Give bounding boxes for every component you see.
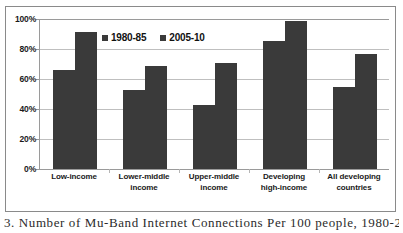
category-label-upper-middle-income: Upper-middleincome (179, 171, 249, 193)
bar-2005-10-upper-middle-income (215, 63, 237, 170)
category-label-line: countries (319, 182, 389, 193)
legend-label: 1980-85 (111, 32, 146, 43)
bar-1980-85-all-developing-countries (333, 87, 355, 170)
legend-swatch-1980-85 (102, 35, 108, 41)
category-separator-tick (319, 169, 320, 173)
bar-1980-85-lower-middle-income (123, 90, 145, 169)
bar-2005-10-all-developing-countries (355, 54, 377, 170)
category-separator-tick (109, 169, 110, 173)
legend-item-2005-10[interactable]: 2005-10 (160, 32, 204, 43)
category-label-line: Upper-middle (179, 171, 249, 182)
legend-item-1980-85[interactable]: 1980-85 (102, 32, 146, 43)
y-axis-tick-label: 60% (20, 74, 36, 84)
category-axis-labels: Low-incomeLower-middleincomeUpper-middle… (39, 171, 389, 211)
bar-1980-85-upper-middle-income (193, 105, 215, 170)
category-label-line: income (179, 182, 249, 193)
category-label-developing-high-income: Developinghigh-income (249, 171, 319, 193)
bar-group (40, 19, 110, 169)
category-label-low-income: Low-income (39, 171, 109, 182)
category-label-line: high-income (249, 182, 319, 193)
category-separator-tick (249, 169, 250, 173)
category-label-line: Developing (249, 171, 319, 182)
category-label-line: Low-income (39, 171, 109, 182)
figure-caption: 3. Number of Mu-Band Internet Connection… (4, 215, 399, 233)
category-separator-tick (179, 169, 180, 173)
y-axis-tick-label: 0% (24, 164, 36, 174)
bar-chart: 100%80%60%40%20%0% 1980-852005-10 Low-in… (6, 7, 395, 211)
legend-swatch-2005-10 (160, 35, 166, 41)
category-label-line: income (109, 182, 179, 193)
chart-figure-frame: 100%80%60%40%20%0% 1980-852005-10 Low-in… (5, 6, 396, 212)
chart-legend: 1980-852005-10 (102, 32, 205, 43)
y-axis-tick-label: 80% (20, 44, 36, 54)
y-tickmark (36, 169, 40, 170)
plot-area: 100%80%60%40%20%0% (39, 19, 389, 169)
bar-group (250, 19, 320, 169)
y-axis-tick-label: 40% (20, 104, 36, 114)
category-label-all-developing-countries: All developingcountries (319, 171, 389, 193)
legend-label: 2005-10 (169, 32, 204, 43)
bar-series-container (40, 19, 389, 169)
y-axis-tick-label: 100% (15, 14, 36, 24)
category-label-line: Lower-middle (109, 171, 179, 182)
bar-2005-10-low-income (75, 32, 97, 169)
bar-1980-85-low-income (53, 70, 75, 169)
bar-group (320, 19, 390, 169)
bar-2005-10-lower-middle-income (145, 66, 167, 169)
y-axis-tick-label: 20% (20, 134, 36, 144)
bar-2005-10-developing-high-income (285, 21, 307, 170)
bar-1980-85-developing-high-income (263, 41, 285, 169)
gridline-0 (40, 169, 389, 170)
category-label-line: All developing (319, 171, 389, 182)
category-label-lower-middle-income: Lower-middleincome (109, 171, 179, 193)
